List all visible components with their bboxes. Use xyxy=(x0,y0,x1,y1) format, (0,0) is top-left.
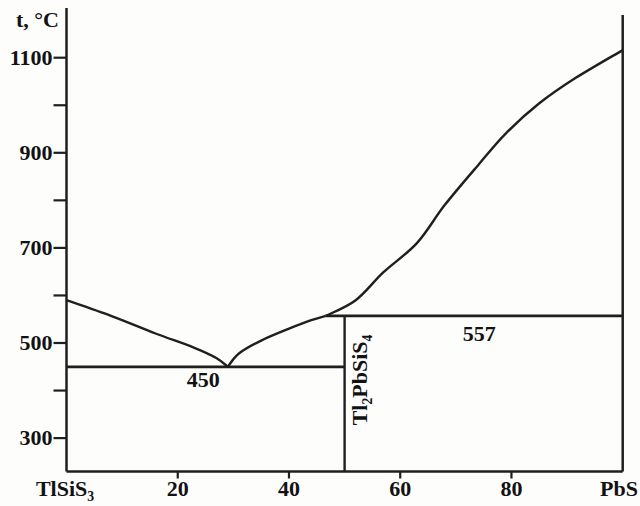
isotherm-450-label: 450 xyxy=(187,368,220,392)
isotherm-557-label: 557 xyxy=(463,322,496,346)
y-tick-label: 500 xyxy=(20,331,53,355)
y-tick-label: 700 xyxy=(20,236,53,260)
x-tick-label: 80 xyxy=(500,477,522,501)
phase-diagram-figure: t, °C 110090070050030020406080TlSiS3PbS4… xyxy=(0,0,640,506)
liquidus-left-descending xyxy=(67,300,228,367)
x-tick-label: 20 xyxy=(167,477,189,501)
subscript: 2 xyxy=(361,397,376,404)
y-tick-label: 900 xyxy=(20,141,53,165)
x-tick-label: 60 xyxy=(389,477,411,501)
y-axis-title: t, °C xyxy=(16,8,59,32)
x-axis-right-end-label: PbS xyxy=(600,477,638,501)
liquidus-right xyxy=(326,50,623,316)
x-tick-label: 40 xyxy=(278,477,300,501)
subscript: 3 xyxy=(87,489,94,504)
subscript: 4 xyxy=(361,334,376,341)
liquidus-left-ascending xyxy=(228,316,326,367)
x-axis-left-end-label: TlSiS3 xyxy=(36,477,94,501)
phase-diagram-plot xyxy=(0,0,640,506)
y-tick-label: 300 xyxy=(20,426,53,450)
compound-formula-label: Tl2PbSiS4 xyxy=(348,334,372,425)
y-tick-label: 1100 xyxy=(10,46,53,70)
